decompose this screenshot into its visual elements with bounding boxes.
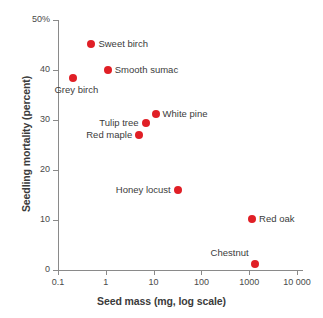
x-tick-mark xyxy=(106,270,107,275)
data-point-label: White pine xyxy=(163,109,208,119)
x-tick-mark xyxy=(58,270,59,275)
data-point[interactable] xyxy=(174,186,182,194)
y-tick-mark xyxy=(53,70,58,71)
data-point[interactable] xyxy=(69,74,77,82)
data-point-label: Red maple xyxy=(86,130,132,140)
x-tick-mark xyxy=(154,270,155,275)
data-point[interactable] xyxy=(87,40,95,48)
data-point-label: Smooth sumac xyxy=(115,65,178,75)
data-point[interactable] xyxy=(104,66,112,74)
x-axis-line xyxy=(58,270,303,271)
y-tick-label: 50% xyxy=(0,14,50,24)
y-tick-label: 30 xyxy=(0,114,50,124)
y-tick-mark xyxy=(53,220,58,221)
y-tick-label: 20 xyxy=(0,164,50,174)
x-tick-mark xyxy=(249,270,250,275)
x-tick-mark xyxy=(297,270,298,275)
scatter-chart: Seedling mortality (percent) Seed mass (… xyxy=(0,0,323,318)
y-tick-mark xyxy=(53,170,58,171)
data-point[interactable] xyxy=(135,131,143,139)
data-point-label: Honey locust xyxy=(116,185,171,195)
data-point[interactable] xyxy=(142,119,150,127)
y-tick-label: 10 xyxy=(0,214,50,224)
y-tick-label: 0 xyxy=(0,264,50,274)
y-axis-title: Seedling mortality (percent) xyxy=(20,24,32,264)
y-tick-mark xyxy=(53,120,58,121)
y-axis-line xyxy=(58,20,59,271)
y-tick-label: 40 xyxy=(0,64,50,74)
data-point-label: Red oak xyxy=(259,214,294,224)
data-point-label: Tulip tree xyxy=(99,118,138,128)
data-point[interactable] xyxy=(152,110,160,118)
data-point-label: Sweet birch xyxy=(98,39,148,49)
data-point[interactable] xyxy=(251,260,259,268)
x-axis-title: Seed mass (mg, log scale) xyxy=(0,295,323,307)
x-tick-mark xyxy=(201,270,202,275)
data-point-label: Chestnut xyxy=(211,248,249,258)
y-tick-mark xyxy=(53,20,58,21)
data-point-label: Grey birch xyxy=(54,85,98,95)
data-point[interactable] xyxy=(248,215,256,223)
x-tick-label: 10 000 xyxy=(267,277,323,287)
